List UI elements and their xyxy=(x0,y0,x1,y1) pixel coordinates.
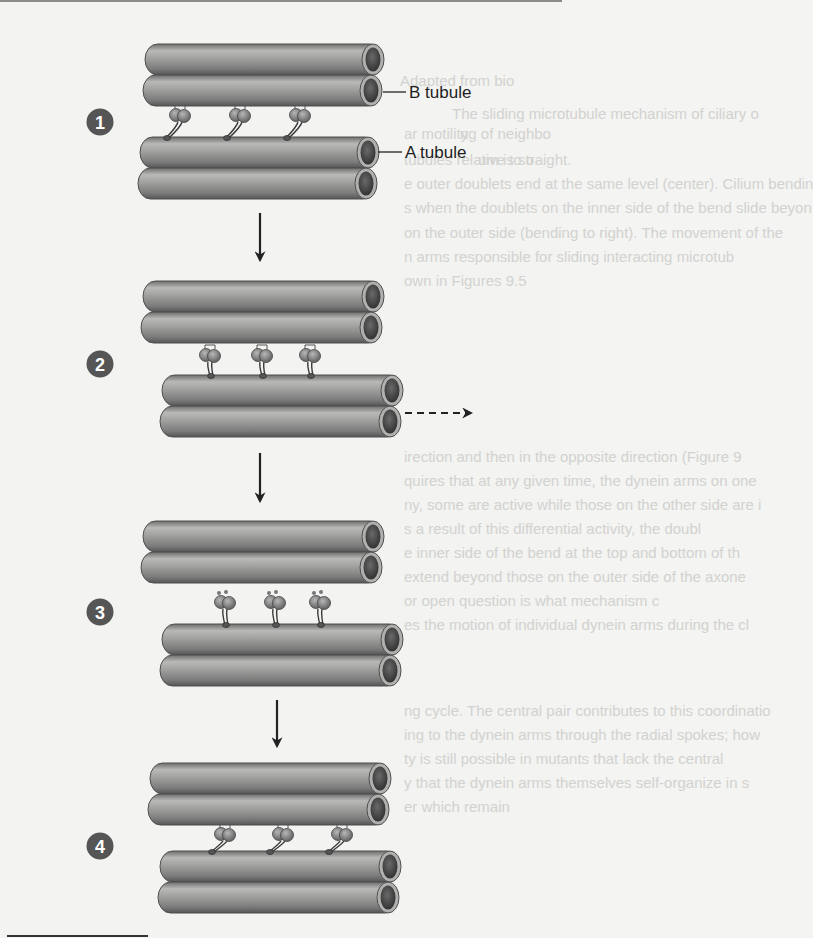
step-2: 2 xyxy=(87,281,472,437)
dynein-arm xyxy=(300,345,321,379)
step-number-badge: 2 xyxy=(87,351,114,378)
upper-doublet xyxy=(143,44,384,106)
microtubule xyxy=(140,137,379,168)
upper-doublet xyxy=(141,521,384,583)
upper-doublet xyxy=(148,763,391,825)
dynein-arm xyxy=(164,105,191,141)
dynein-arm xyxy=(209,824,236,855)
microtubule xyxy=(162,375,403,406)
dynein-arm xyxy=(326,824,353,855)
footnote-rule xyxy=(7,935,148,937)
callout-a-tubule: A tubule xyxy=(378,143,466,162)
dynein-arm xyxy=(267,824,294,855)
microtubule xyxy=(148,794,389,825)
microtubule xyxy=(143,75,382,106)
lower-doublet xyxy=(158,851,401,913)
dynein-arm xyxy=(284,105,311,141)
dynein-arm xyxy=(265,590,286,628)
step-number-badge: 3 xyxy=(87,599,114,626)
callout-label: B tubule xyxy=(409,83,471,102)
step-4: 4 xyxy=(87,763,402,913)
microtubule xyxy=(145,44,384,75)
lower-doublet xyxy=(138,137,379,199)
dynein-arm xyxy=(310,590,331,628)
dynein-arm xyxy=(215,590,236,628)
microtubule xyxy=(141,552,382,583)
step-3: 3 xyxy=(87,521,404,686)
step-number: 3 xyxy=(95,603,105,623)
dynein-arm xyxy=(252,345,273,379)
lower-doublet xyxy=(160,375,403,437)
microtubule xyxy=(141,312,382,343)
steps-layer: 1234 xyxy=(87,44,472,913)
microtubule xyxy=(143,521,384,552)
step-number: 2 xyxy=(95,355,105,375)
microtubule xyxy=(160,406,401,437)
microtubule xyxy=(160,851,401,882)
callout-label: A tubule xyxy=(405,143,466,162)
callouts-layer: B tubuleA tubule xyxy=(378,83,471,162)
dynein-arm xyxy=(200,345,221,379)
microtubule xyxy=(150,763,391,794)
callout-b-tubule: B tubule xyxy=(383,83,471,102)
lower-doublet xyxy=(160,624,403,686)
step-number: 4 xyxy=(95,837,105,857)
microtubule xyxy=(143,281,384,312)
microtubule xyxy=(158,882,399,913)
microtubule xyxy=(160,655,401,686)
microtubule xyxy=(162,624,403,655)
step-number-badge: 4 xyxy=(87,833,114,860)
step-1: 1 xyxy=(87,44,385,199)
microtubule xyxy=(138,168,377,199)
step-number: 1 xyxy=(95,113,105,133)
step-number-badge: 1 xyxy=(87,109,114,136)
upper-doublet xyxy=(141,281,384,343)
dynein-arm xyxy=(224,105,251,141)
